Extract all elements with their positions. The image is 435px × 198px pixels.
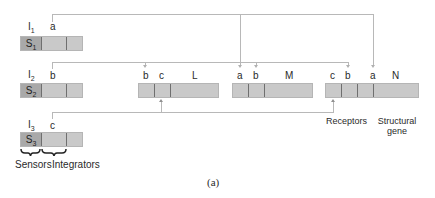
gene-label-m: M <box>285 71 293 81</box>
arrow-up-icon <box>331 99 335 102</box>
receptor-label-m-a: a <box>237 71 243 81</box>
sensor-s1: S1 <box>21 37 42 50</box>
arrow-down-icon <box>371 65 375 68</box>
signal-line-c <box>52 112 334 113</box>
gene-unit-n <box>325 83 419 98</box>
structural-gene-annotation: Structural gene <box>374 116 420 136</box>
sensor-s2: S2 <box>21 84 42 97</box>
integrator-segment <box>41 37 67 50</box>
integrator-segment <box>41 133 67 146</box>
receptor-segment <box>358 84 374 97</box>
regulator-unit-2: S2 <box>20 83 83 98</box>
receptor-segment <box>342 84 358 97</box>
signal-line-b-origin <box>52 62 53 69</box>
receptor-label-n-c: c <box>330 71 335 81</box>
receptor-label-l-c: c <box>159 71 164 81</box>
integrator-label-1: I1 <box>28 22 35 36</box>
signal-label-b: b <box>50 71 56 81</box>
receptors-annotation: Receptors <box>326 116 367 126</box>
signal-label-a: a <box>50 22 56 32</box>
receptor-label-l-b: b <box>143 71 149 81</box>
sensors-label: Sensors <box>15 160 52 170</box>
structural-gene-line1: Structural <box>374 116 420 126</box>
signal-line-b <box>52 62 349 63</box>
receptor-segment <box>155 84 171 97</box>
signal-line-c-to-n <box>333 102 334 112</box>
gene-label-n: N <box>392 71 399 81</box>
arrow-up-icon <box>159 99 163 102</box>
receptor-label-n-a: a <box>370 71 376 81</box>
integrators-brace-icon <box>41 149 67 157</box>
signal-line-a-to-n <box>373 14 374 66</box>
structural-gene-line2: gene <box>374 126 420 136</box>
regulator-unit-3: S3 <box>20 132 83 147</box>
gene-unit-m <box>232 83 313 98</box>
integrator-label-2: I2 <box>28 70 35 84</box>
arrow-down-icon <box>254 65 258 68</box>
figure-caption: (a) <box>207 176 219 188</box>
arrow-down-icon <box>143 65 147 68</box>
sensors-brace-icon <box>20 149 41 157</box>
sensor-s3: S3 <box>21 133 42 146</box>
signal-label-c: c <box>50 121 55 131</box>
receptor-segment <box>139 84 155 97</box>
receptor-label-m-b: b <box>253 71 259 81</box>
receptor-label-n-b: b <box>345 71 351 81</box>
receptor-segment <box>326 84 342 97</box>
integrator-segment <box>41 84 67 97</box>
gene-label-l: L <box>192 71 198 81</box>
signal-line-c-to-l <box>161 102 162 112</box>
gene-unit-l <box>138 83 219 98</box>
integrators-label: Integrators <box>52 160 100 170</box>
arrow-down-icon <box>346 65 350 68</box>
signal-line-a-to-m <box>240 14 241 66</box>
signal-line-a <box>52 14 374 15</box>
regulator-unit-1: S1 <box>20 36 83 51</box>
signal-line-c-origin <box>52 112 53 119</box>
receptor-segment <box>233 84 249 97</box>
arrow-down-icon <box>238 65 242 68</box>
receptor-segment <box>249 84 265 97</box>
